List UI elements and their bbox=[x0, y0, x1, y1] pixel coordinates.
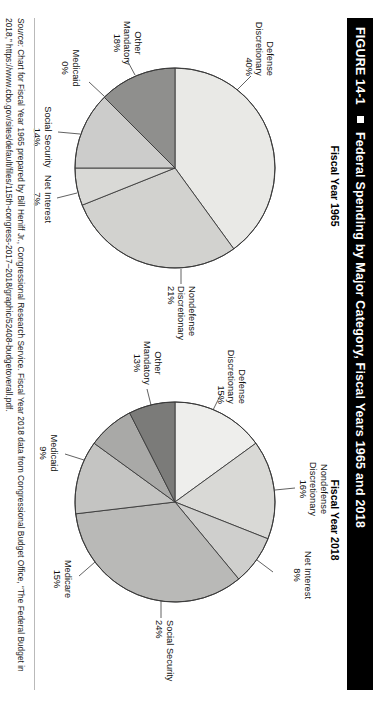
leader-social-security bbox=[58, 132, 80, 134]
source-note: Source: Chart for Fiscal Year 1965 prepa… bbox=[3, 18, 27, 694]
label-defense-discretionary-2018: Defense Discretionary 15% bbox=[216, 336, 248, 404]
pie-2018-graphic: Defense Discretionary 15% Nondefense Dis… bbox=[43, 352, 343, 688]
label-social-security-1965: Social Security 14% bbox=[32, 100, 53, 174]
figure-number: FIGURE 14-1 bbox=[353, 27, 367, 105]
label-medicaid-2018: Medicaid 9% bbox=[38, 424, 59, 482]
figure-page: FIGURE 14-1 Federal Spending by Major Ca… bbox=[0, 0, 387, 706]
label-medicaid-1965: Medicaid 0% bbox=[60, 40, 81, 96]
label-social-security-2018: Social Security 24% bbox=[154, 620, 175, 690]
pie-chart-2018: Fiscal Year 2018 bbox=[43, 352, 343, 688]
leader-defense bbox=[237, 76, 251, 90]
source-text: Chart for Fiscal Year 1965 prepared by B… bbox=[4, 18, 26, 672]
charts-container: Fiscal Year 1965 bbox=[43, 18, 343, 690]
label-defense-discretionary-1965: Defense Discretionary 40% bbox=[244, 12, 276, 76]
leader-net-interest bbox=[57, 193, 77, 198]
source-label: Source: bbox=[16, 18, 26, 47]
label-net-interest-2018: Net Interest 8% bbox=[292, 544, 313, 606]
figure-title: Federal Spending by Major Category, Fisc… bbox=[353, 132, 367, 528]
title-square-bullet-icon bbox=[357, 116, 364, 123]
label-nondefense-discretionary-2018: Nondefense Discretionary 16% bbox=[298, 452, 330, 526]
label-nondefense-discretionary-1965: Nondefense Discretionary 21% bbox=[166, 286, 198, 356]
leader-net-interest bbox=[257, 560, 273, 572]
label-other-mandatory-2018: Other Mandatory 13% bbox=[132, 330, 164, 396]
leader-medicare bbox=[79, 562, 95, 576]
figure-title-bar: FIGURE 14-1 Federal Spending by Major Ca… bbox=[347, 18, 373, 690]
label-other-mandatory-1965: Other Mandatory 18% bbox=[112, 10, 144, 76]
leader-nondefense bbox=[275, 488, 295, 490]
pie-1965-graphic: Defense Discretionary 40% Nondefense Dis… bbox=[43, 18, 343, 354]
pie-chart-1965: Fiscal Year 1965 bbox=[43, 18, 343, 354]
label-net-interest-1965: Net Interest 7% bbox=[32, 168, 53, 230]
leader-medicaid bbox=[89, 82, 104, 96]
leader-medicaid bbox=[65, 454, 84, 460]
source-divider bbox=[34, 18, 35, 690]
label-medicare-2018: Medicare 15% bbox=[52, 548, 73, 610]
